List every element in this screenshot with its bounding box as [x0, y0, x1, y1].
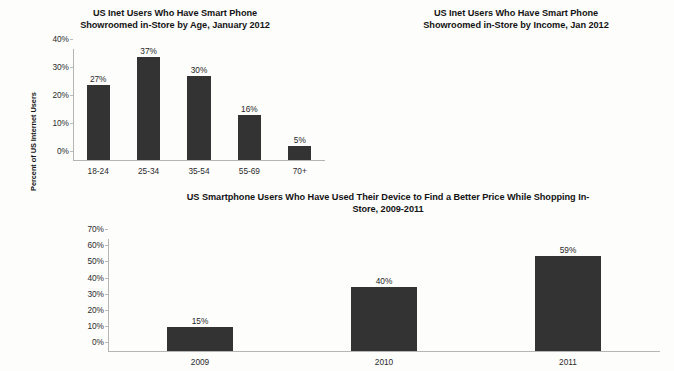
bar	[87, 85, 110, 161]
y-axis-tick-label: 20%	[52, 90, 73, 100]
chart-showrooming-by-age: US Inet Users Who Have Smart Phone Showr…	[0, 2, 340, 188]
y-axis-tick-label: 0%	[57, 146, 73, 156]
chart-title-income: US Inet Users Who Have Smart Phone Showr…	[340, 2, 674, 31]
x-axis-tick-label: 2011	[476, 357, 660, 367]
chart-title-line: US Smartphone Users Who Have Used Their …	[110, 192, 666, 204]
x-axis-tick-label: 18-24	[73, 166, 123, 176]
chart-body-income: Percent of US Internet Users 0%10%20%30%…	[340, 31, 674, 181]
chart-body-year: % of US Smartphone Users 0%10%20%30%40%5…	[0, 215, 674, 365]
bar-value-label: 15%	[192, 316, 209, 326]
chart-title-line: Showroomed in-Store by Income, Jan 2012	[370, 20, 662, 32]
plot-area-year: 0%10%20%30%40%50%60%70%15%200940%201059%…	[108, 239, 660, 352]
chart-showrooming-by-income: US Inet Users Who Have Smart Phone Showr…	[340, 2, 674, 188]
y-axis-tick-label: 0%	[92, 337, 108, 347]
plot-area-age: 0%10%20%30%40%27%18-2437%25-3430%35-5416…	[73, 49, 325, 161]
x-axis-tick-label: 55-69	[224, 166, 274, 176]
y-axis-tick-label: 10%	[87, 321, 108, 331]
chart-title-line: Showroomed in-Store by Age, January 2012	[28, 20, 322, 32]
y-axis-tick-label: 20%	[87, 305, 108, 315]
chart-title-age: US Inet Users Who Have Smart Phone Showr…	[0, 2, 340, 31]
chart-title-line: US Inet Users Who Have Smart Phone	[370, 8, 662, 20]
x-axis-line	[108, 351, 660, 352]
bar	[535, 256, 601, 351]
bar-value-label: 5%	[294, 135, 306, 145]
bar	[288, 146, 311, 160]
bar-value-label: 37%	[140, 46, 157, 56]
y-axis-tick-label: 30%	[52, 62, 73, 72]
chart-title-line: US Inet Users Who Have Smart Phone	[28, 8, 322, 20]
bar-value-label: 59%	[560, 245, 577, 255]
x-axis-line	[73, 160, 325, 161]
bar	[187, 76, 210, 160]
x-axis-tick-label: 70+	[275, 166, 325, 176]
y-axis-tick-label: 60%	[87, 240, 108, 250]
bar	[167, 327, 233, 351]
bar-value-label: 40%	[376, 276, 393, 286]
chart-body-age: Percent of US Internet Users 0%10%20%30%…	[0, 31, 340, 181]
chart-title-year: US Smartphone Users Who Have Used Their …	[0, 190, 674, 215]
y-axis-tick-label: 30%	[87, 289, 108, 299]
y-axis-tick-label: 10%	[52, 118, 73, 128]
bar	[351, 287, 417, 352]
chart-title-line: Store, 2009-2011	[110, 204, 666, 216]
y-axis-line	[108, 239, 109, 352]
bar	[137, 57, 160, 161]
bar	[238, 115, 261, 160]
x-axis-tick-label: 25-34	[123, 166, 173, 176]
y-axis-tick-label: 70%	[87, 224, 108, 234]
x-axis-tick-label: 2010	[292, 357, 476, 367]
y-axis-tick-label: 40%	[52, 34, 73, 44]
y-axis-tick-label: 40%	[87, 273, 108, 283]
bar-value-label: 16%	[241, 104, 258, 114]
bar-value-label: 30%	[191, 65, 208, 75]
x-axis-tick-label: 2009	[108, 357, 292, 367]
y-axis-title-age: Percent of US Internet Users	[29, 92, 38, 191]
bar-value-label: 27%	[90, 74, 107, 84]
y-axis-tick-label: 50%	[87, 256, 108, 266]
chart-better-price-by-year: US Smartphone Users Who Have Used Their …	[0, 190, 674, 371]
x-axis-tick-label: 35-54	[174, 166, 224, 176]
y-axis-line	[73, 49, 74, 161]
